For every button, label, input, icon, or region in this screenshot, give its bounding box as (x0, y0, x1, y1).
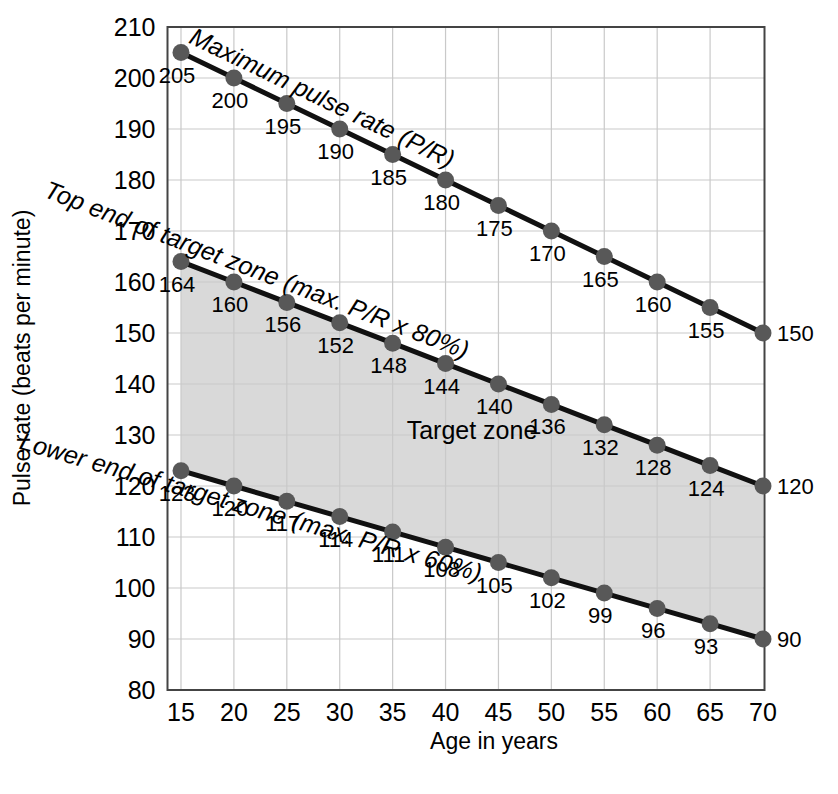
x-tick-label: 60 (643, 698, 671, 726)
y-tick-label: 210 (114, 13, 156, 41)
data-point-label: 102 (529, 588, 566, 613)
data-point-label: 165 (582, 267, 619, 292)
y-tick-label: 100 (114, 574, 156, 602)
data-point-label: 160 (635, 292, 672, 317)
data-point-label: 150 (777, 321, 814, 346)
data-point-marker (755, 325, 772, 342)
data-point-marker (596, 248, 613, 265)
chart-canvas: 8090100110120130140150160170180190200210… (0, 0, 838, 794)
data-point-label: 205 (159, 63, 196, 88)
data-point-marker (543, 569, 560, 586)
data-point-label: 155 (688, 318, 725, 343)
y-axis-title: Pulse rate (beats per minute) (9, 210, 35, 507)
y-tick-label: 90 (128, 625, 156, 653)
x-tick-label: 25 (273, 698, 301, 726)
pulse-rate-chart: 8090100110120130140150160170180190200210… (0, 0, 838, 794)
x-tick-label: 50 (537, 698, 565, 726)
data-point-marker (490, 197, 507, 214)
y-tick-label: 160 (114, 268, 156, 296)
x-tick-label: 30 (326, 698, 354, 726)
y-tick-label: 130 (114, 421, 156, 449)
data-point-label: 148 (370, 353, 407, 378)
y-tick-label: 180 (114, 166, 156, 194)
x-tick-label: 20 (220, 698, 248, 726)
data-point-marker (649, 274, 666, 291)
x-tick-label: 65 (696, 698, 724, 726)
data-point-marker (490, 554, 507, 571)
x-axis-title: Age in years (430, 728, 558, 754)
data-point-marker (755, 631, 772, 648)
data-point-label: 200 (212, 88, 249, 113)
x-tick-label: 45 (485, 698, 513, 726)
data-point-label: 90 (777, 627, 801, 652)
data-point-marker (649, 600, 666, 617)
data-point-label: 124 (688, 476, 725, 501)
data-point-marker (596, 585, 613, 602)
x-tick-label: 15 (167, 698, 195, 726)
x-tick-label: 55 (590, 698, 618, 726)
data-point-label: 120 (777, 474, 814, 499)
data-point-marker (702, 457, 719, 474)
data-point-label: 195 (264, 114, 301, 139)
data-point-label: 164 (159, 272, 196, 297)
y-tick-label: 190 (114, 115, 156, 143)
data-point-label: 152 (317, 333, 354, 358)
y-tick-label: 80 (128, 676, 156, 704)
data-point-label: 156 (264, 312, 301, 337)
data-point-label: 144 (423, 374, 460, 399)
data-point-marker (437, 172, 454, 189)
data-point-marker (543, 223, 560, 240)
data-point-label: 99 (588, 603, 612, 628)
data-point-marker (755, 478, 772, 495)
zone-annotation-label: Target zone (407, 416, 538, 444)
data-point-marker (702, 615, 719, 632)
data-point-label: 105 (476, 573, 513, 598)
data-point-label: 96 (641, 618, 665, 643)
y-tick-label: 140 (114, 370, 156, 398)
y-tick-label: 110 (116, 523, 156, 551)
data-point-marker (490, 376, 507, 393)
data-point-label: 170 (529, 241, 566, 266)
data-point-label: 132 (582, 435, 619, 460)
data-point-label: 185 (370, 165, 407, 190)
data-point-marker (702, 299, 719, 316)
x-tick-label: 40 (432, 698, 460, 726)
data-point-label: 128 (635, 455, 672, 480)
data-point-label: 190 (317, 139, 354, 164)
data-point-label: 175 (476, 216, 513, 241)
x-tick-label: 35 (379, 698, 407, 726)
data-point-marker (649, 437, 666, 454)
y-tick-label: 150 (114, 319, 156, 347)
data-point-label: 93 (694, 634, 718, 659)
x-tick-label: 70 (749, 698, 777, 726)
data-point-marker (543, 396, 560, 413)
data-point-label: 160 (212, 292, 249, 317)
chart-annotations: Target zone (407, 416, 538, 444)
y-tick-label: 200 (114, 64, 156, 92)
data-point-label: 180 (423, 190, 460, 215)
data-point-marker (596, 416, 613, 433)
